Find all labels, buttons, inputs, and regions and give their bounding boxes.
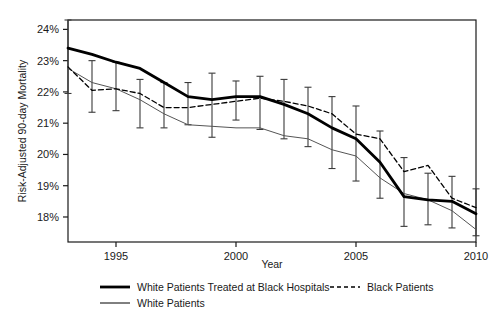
legend-label: Black Patients [367,281,434,293]
y-axis-title: Risk-Adjusted 90-day Mortality [16,59,28,202]
y-tick-label: 19% [37,180,59,192]
chart-figure: 18%19%20%21%22%23%24% 1995200020052010 R… [0,0,493,328]
legend-label: White Patients [137,297,205,309]
x-axis-title: Year [261,258,283,270]
x-tick-label: 2000 [224,250,248,262]
risk-adjusted-mortality-line-chart: 18%19%20%21%22%23%24% 1995200020052010 R… [0,0,493,328]
y-tick-label: 18% [37,211,59,223]
y-tick-label: 22% [37,86,59,98]
legend-label: White Patients Treated at Black Hospital… [137,281,330,293]
y-tick-label: 24% [37,23,59,35]
y-tick-label: 21% [37,117,59,129]
y-tick-label: 20% [37,148,59,160]
x-tick-label: 2010 [464,250,488,262]
x-tick-label: 2005 [344,250,368,262]
y-tick-label: 23% [37,55,59,67]
x-tick-label: 1995 [104,250,128,262]
